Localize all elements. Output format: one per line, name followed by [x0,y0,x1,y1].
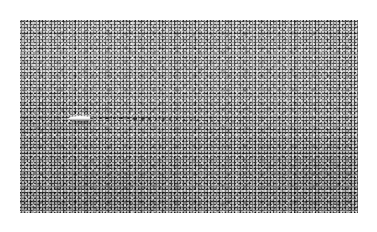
bright-elongated-object [68,113,98,124]
figure-page [0,0,377,232]
photograph [20,20,358,213]
object-highlight [73,116,88,118]
